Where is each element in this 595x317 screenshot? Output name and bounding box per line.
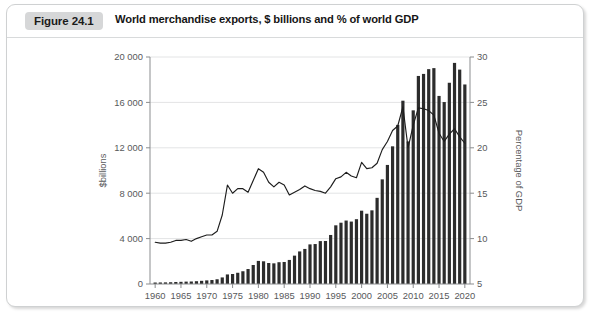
x-axis-tick-labels: 1960196519701975198019851990199520002005… [145,290,476,301]
y2-axis-tick-labels: 51015202530 [477,51,487,289]
x-tick-label: 1970 [196,290,217,301]
x-tick-label: 2000 [351,290,372,301]
bar-2015 [437,96,440,284]
y2-tick-label: 20 [477,142,487,153]
figure-number-badge: Figure 24.1 [25,12,103,30]
bar-1974 [226,274,229,284]
y-axis-tick-labels: 04 0008 00012 00016 00020 000 [114,51,143,289]
y2-tick-label: 30 [477,51,487,62]
y2-tick-label: 25 [477,97,487,108]
bar-1971 [210,280,213,284]
bar-1972 [216,279,219,284]
bar-2012 [422,74,425,284]
bar-1973 [221,277,224,284]
bar-2019 [458,70,461,284]
x-tick-label: 2005 [377,290,398,301]
y2-axis-title: Percentage of GDP [514,130,525,211]
bar-1998 [350,222,353,284]
bar-2009 [406,141,409,284]
x-tick-label: 2015 [429,290,450,301]
bar-2016 [443,102,446,284]
figure-caption: World merchandise exports, $ billions an… [115,13,418,25]
bar-2020 [463,84,466,284]
y-tick-label: 4 000 [120,233,143,244]
bar-2006 [391,146,394,284]
bar-2018 [453,63,456,284]
bar-2005 [386,165,389,284]
x-tick-label: 2010 [403,290,424,301]
bar-1981 [262,261,265,284]
y-axis-title: $billions [97,153,108,187]
bar-1979 [252,265,255,284]
bar-1983 [272,263,275,284]
bar-1977 [241,271,244,284]
bar-2013 [427,69,430,284]
y-tick-label: 20 000 [114,51,143,62]
x-tick-label: 1965 [171,290,192,301]
bar-1994 [329,235,332,284]
bar-2010 [412,110,415,284]
bar-1995 [334,225,337,284]
bar-2004 [381,179,384,284]
bar-1991 [314,244,317,284]
bar-2011 [417,76,420,284]
bar-1984 [277,262,280,284]
x-tick-label: 1985 [274,290,295,301]
bar-2000 [360,211,363,284]
y2-tick-label: 5 [477,278,482,289]
figure-card: Figure 24.1 World merchandise exports, $… [6,4,584,307]
bar-1990 [308,244,311,284]
bar-2014 [432,68,435,284]
bar-1997 [345,221,348,284]
bar-1988 [298,251,301,284]
x-tick-label: 1980 [248,290,269,301]
bar-2001 [365,214,368,284]
y-tick-label: 12 000 [114,142,143,153]
figure-header: Figure 24.1 World merchandise exports, $… [7,5,583,38]
bar-1987 [293,256,296,284]
bar-1999 [355,219,358,284]
bar-1976 [236,273,239,284]
bar-2007 [396,125,399,284]
exports-chart: 1960196519701975198019851990199520002005… [7,38,585,307]
bar-1975 [231,274,234,284]
bar-1996 [339,223,342,284]
bar-1982 [267,263,270,284]
x-tick-label: 1990 [300,290,321,301]
chart-plot-area: 1960196519701975198019851990199520002005… [7,38,583,307]
bar-1989 [303,249,306,284]
bar-1980 [257,261,260,284]
bar-2008 [401,101,404,284]
y-tick-label: 0 [138,278,143,289]
bar-1978 [246,269,249,284]
bar-series [154,63,467,284]
x-tick-label: 2020 [454,290,475,301]
y2-tick-label: 15 [477,188,487,199]
bar-2017 [448,83,451,284]
bar-1993 [324,241,327,284]
bar-2002 [370,210,373,284]
bar-1970 [205,280,208,284]
bar-1992 [319,241,322,284]
bar-1985 [283,262,286,284]
bar-2003 [376,198,379,284]
y2-tick-label: 10 [477,233,487,244]
y-tick-label: 8 000 [120,188,143,199]
x-tick-label: 1960 [145,290,166,301]
y-tick-label: 16 000 [114,97,143,108]
x-tick-label: 1995 [325,290,346,301]
bar-1986 [288,260,291,284]
x-tick-label: 1975 [222,290,243,301]
